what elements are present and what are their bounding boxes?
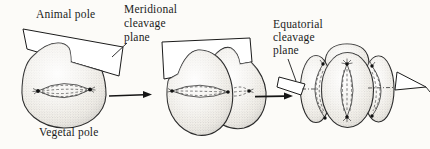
meridional-plane-label-line2: cleavage — [124, 17, 166, 30]
sequence-arrow-icon — [109, 91, 152, 98]
stage-four-cell — [277, 44, 430, 128]
equatorial-plane-label-line2: cleavage — [273, 31, 315, 44]
meridional-plane-label-line3: plane — [124, 31, 150, 44]
meridional-plane-label-line1: Meridional — [124, 3, 177, 15]
equatorial-plane-label-line1: Equatorial — [273, 18, 323, 31]
centrosome-dot — [88, 88, 92, 92]
stage-two-cell — [162, 38, 266, 135]
stage-zygote — [22, 29, 123, 128]
animal-pole-label: Animal pole — [36, 8, 95, 21]
figure-canvas: Animal pole Vegetal pole Meridional clea… — [0, 0, 430, 149]
equatorial-label-leader-line — [288, 59, 296, 81]
cleavage-diagram: Animal pole Vegetal pole Meridional clea… — [0, 0, 430, 149]
equatorial-plane-label-line3: plane — [273, 44, 299, 57]
centrosome-dot — [36, 89, 40, 93]
vegetal-pole-label: Vegetal pole — [39, 126, 99, 139]
